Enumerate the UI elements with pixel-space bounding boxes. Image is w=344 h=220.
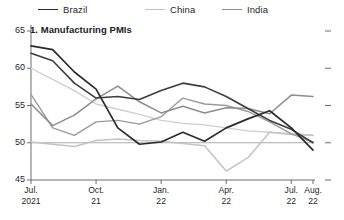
y-axis-label: 50	[9, 137, 25, 147]
y-axis-label: 55	[9, 100, 25, 110]
x-axis-label-year: 21	[74, 196, 118, 207]
y-axis-label: 45	[9, 174, 25, 184]
x-axis-label-month: Apr.	[204, 185, 248, 196]
x-axis-label-month: Jan.	[139, 185, 183, 196]
series-line-india-alt	[31, 94, 313, 142]
x-axis-label-year: 22	[204, 196, 248, 207]
x-axis-label: Jan.22	[139, 185, 183, 206]
x-axis-label-month: Aug.	[291, 185, 335, 196]
x-axis-label-month: Oct.	[74, 185, 118, 196]
y-axis-label: 65	[9, 25, 25, 35]
x-axis-label: Apr.22	[204, 185, 248, 206]
x-axis-label-year: 2021	[9, 196, 53, 207]
y-axis-label: 60	[9, 62, 25, 72]
series-line-china	[31, 132, 313, 171]
x-axis-label-month: Jul.	[9, 185, 53, 196]
series-line-brazil-alt	[31, 53, 313, 142]
series-line-india	[31, 86, 313, 125]
x-axis-label: Aug.22	[291, 185, 335, 206]
x-axis-label-year: 22	[139, 196, 183, 207]
chart-page: BrazilChinaIndia 1. Manufacturing PMIs 4…	[0, 0, 344, 220]
x-axis-label: Jul.2021	[9, 185, 53, 206]
x-axis-label-year: 22	[291, 196, 335, 207]
series-line-china-alt	[31, 68, 313, 135]
x-axis-label: Oct.21	[74, 185, 118, 206]
